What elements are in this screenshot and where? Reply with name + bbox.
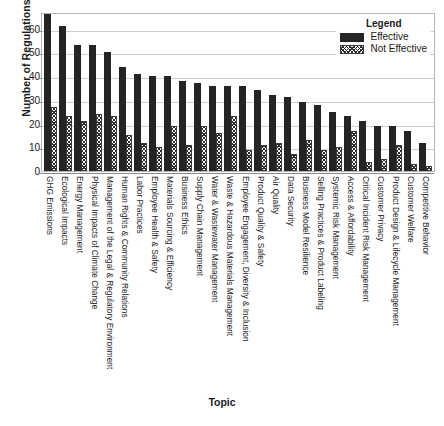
bar-not-effective (411, 164, 418, 171)
bar-effective (344, 116, 351, 171)
x-tick-label: Customer Privacy (374, 174, 389, 379)
x-tick-label-text: Business Ethics (181, 176, 189, 235)
bar-group (148, 14, 163, 171)
x-tick-label: Business Model Resilience (298, 174, 313, 379)
bar-not-effective (336, 147, 343, 171)
bar-effective (209, 86, 216, 171)
x-tick-label-text: Supply Chain Management (196, 176, 204, 276)
x-tick-label-text: Product Quality & Safety (256, 176, 264, 266)
x-tick-label: Product Design & Lifecycle Management (389, 174, 404, 379)
bar-group (178, 14, 193, 171)
bar-group (73, 14, 88, 171)
bar-not-effective (426, 166, 433, 171)
x-tick-label-text: Selling Practices & Product Labeling (317, 176, 325, 310)
bar-group (283, 14, 298, 171)
bar-not-effective (291, 154, 298, 171)
bar-not-effective (321, 150, 328, 171)
bar-effective (74, 45, 81, 171)
x-tick-label: Ecological Impacts (57, 174, 72, 379)
bar-not-effective (201, 126, 208, 171)
bar-effective (389, 126, 396, 171)
x-tick-label: Critical Incident Risk Management (359, 174, 374, 379)
legend-item: Effective (340, 32, 427, 42)
bar-not-effective (276, 143, 283, 171)
legend-title: Legend (340, 18, 427, 29)
bar-effective (239, 86, 246, 171)
bar-not-effective (81, 121, 88, 171)
x-tick-label-text: Labor Practices (136, 176, 144, 234)
bar-group (298, 14, 313, 171)
bar-effective (404, 131, 411, 171)
x-tick-label: Data Security (283, 174, 298, 379)
x-tick-label-text: Energy Management (76, 176, 84, 253)
bar-not-effective (171, 126, 178, 171)
x-tick-label-text: Data Security (287, 176, 295, 226)
bar-effective (329, 112, 336, 171)
legend-swatch-not-effective (340, 45, 364, 54)
x-tick-label: Energy Management (72, 174, 87, 379)
x-tick-label-text: Business Model Resilience (302, 176, 310, 275)
bar-not-effective (66, 116, 73, 171)
bar-group (43, 14, 58, 171)
x-tick-label: Air Quality (268, 174, 283, 379)
x-tick-label-text: Management of the Legal & Regulatory Env… (106, 176, 114, 369)
bar-effective (44, 14, 51, 171)
bar-not-effective (231, 116, 238, 171)
bar-group (313, 14, 328, 171)
x-tick-label-text: Water & Wastewater Management (211, 176, 219, 302)
x-tick-label-text: Materials Sourcing & Efficiency (166, 176, 174, 290)
bar-effective (59, 26, 66, 171)
bar-effective (179, 81, 186, 171)
bar-effective (374, 126, 381, 171)
x-tick-label-text: Employee Health & Safety (151, 176, 159, 273)
x-tick-label-text: Employee Engagement, Diversity & Inclusi… (241, 176, 249, 342)
x-tick-label: Materials Sourcing & Efficiency (163, 174, 178, 379)
legend-entries: EffectiveNot Effective (340, 32, 427, 54)
x-tick-label: Waste & Hazardous Materials Management (223, 174, 238, 379)
x-tick-label: Physical Impacts of Climate Change (87, 174, 102, 379)
bar-effective (134, 74, 141, 171)
y-tick-label-40: 40 (29, 72, 40, 82)
y-tick-label-0: 0 (34, 167, 40, 177)
bar-effective (164, 76, 171, 171)
legend-swatch-effective (340, 33, 364, 42)
x-tick-label: Management of the Legal & Regulatory Env… (102, 174, 117, 379)
bar-not-effective (246, 150, 253, 171)
x-tick-label-text: Waste & Hazardous Materials Management (226, 176, 234, 336)
x-tick-label: Water & Wastewater Management (208, 174, 223, 379)
x-tick-label: Selling Practices & Product Labeling (313, 174, 328, 379)
x-tick-label: Human Rights & Community Relations (117, 174, 132, 379)
legend-label: Not Effective (370, 44, 427, 54)
bar-not-effective (126, 135, 133, 171)
x-tick-label-text: Human Rights & Community Relations (121, 176, 129, 318)
bar-group (253, 14, 268, 171)
x-tick-label-text: Access & Affordability (347, 176, 355, 256)
x-tick-label: Supply Chain Management (193, 174, 208, 379)
bar-group (223, 14, 238, 171)
legend-item: Not Effective (340, 44, 427, 54)
x-tick-label-text: GHG Emissions (45, 176, 53, 235)
bar-effective (149, 76, 156, 171)
bar-not-effective (216, 133, 223, 171)
bar-effective (194, 83, 201, 171)
bar-not-effective (156, 147, 163, 171)
bar-not-effective (141, 143, 148, 171)
x-tick-label-text: Physical Impacts of Climate Change (91, 176, 99, 309)
bar-effective (254, 90, 261, 171)
bar-not-effective (381, 159, 388, 171)
legend-label: Effective (370, 32, 408, 42)
x-tick-label-text: Systemic Risk Management (332, 176, 340, 279)
x-tick-label-text: Critical Incident Risk Management (362, 176, 370, 302)
bar-chart: Number of Regulations 0102030405060 GHG … (0, 0, 444, 426)
bar-not-effective (96, 114, 103, 171)
y-tick-label-60: 60 (29, 25, 40, 35)
y-axis-tick-labels: 0102030405060 (16, 0, 40, 180)
x-tick-label: Access & Affordability (344, 174, 359, 379)
bar-effective (269, 95, 276, 171)
x-tick-label: Employee Engagement, Diversity & Inclusi… (238, 174, 253, 379)
legend: Legend EffectiveNot Effective (336, 16, 431, 57)
x-tick-label: Employee Health & Safety (148, 174, 163, 379)
x-tick-label: Product Quality & Safety (253, 174, 268, 379)
bar-effective (284, 97, 291, 171)
bar-effective (224, 86, 231, 171)
